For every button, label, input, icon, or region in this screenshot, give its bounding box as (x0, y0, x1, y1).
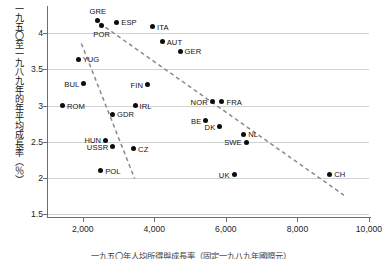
data-point (327, 172, 332, 177)
data-point (110, 112, 115, 117)
data-point-label: YUG (83, 55, 100, 64)
data-point (76, 57, 81, 62)
data-point-label: DK (205, 122, 216, 131)
data-point-label: FIN (130, 80, 143, 89)
data-point-label: ESP (121, 18, 137, 27)
data-point-label: UK (219, 170, 230, 179)
data-point-label: POR (93, 30, 110, 39)
data-point (178, 49, 183, 54)
data-point-label: BUL (64, 79, 79, 88)
data-point-label: NOR (191, 97, 208, 106)
figure-caption: 一九五〇年人均所得與成長率（固定一九八九年國際元） (0, 249, 381, 259)
data-point-label: USSR (87, 142, 109, 151)
data-point-label: POL (105, 166, 121, 175)
data-point-label: AUT (167, 37, 183, 46)
data-point-label: NL (248, 130, 258, 139)
data-point-label: ROM (67, 101, 85, 110)
data-point-label: FRA (226, 97, 242, 106)
western-europe-trend (100, 23, 344, 195)
data-point-label: BE (191, 116, 201, 125)
data-point-label: CH (334, 170, 345, 179)
data-point (133, 103, 138, 108)
data-point-label: CZ (138, 144, 148, 153)
data-point-label: ITA (157, 22, 169, 31)
data-point-label: SWE (224, 138, 242, 147)
data-point-label: GRE (89, 7, 106, 16)
data-point (60, 103, 65, 108)
data-point-label: GDR (117, 110, 134, 119)
data-point (244, 140, 249, 145)
data-point-label: GER (185, 47, 202, 56)
data-point-label: IRL (140, 101, 152, 110)
